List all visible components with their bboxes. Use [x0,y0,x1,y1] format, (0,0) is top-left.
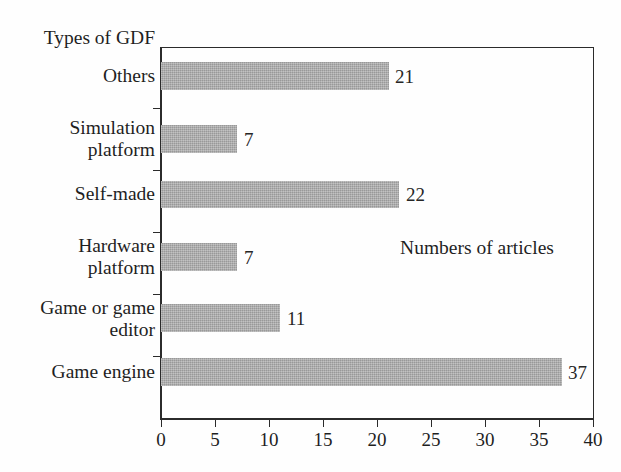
x-tick-35 [539,420,540,427]
x-tick-label-25: 25 [422,430,441,450]
x-tick-0 [161,420,162,427]
x-tick-10 [269,420,270,427]
x-tick-15 [323,420,324,427]
x-axis: 0 5 10 15 20 25 30 35 40 [0,0,621,472]
x-tick-label-15: 15 [314,430,333,450]
x-tick-label-20: 20 [368,430,387,450]
x-tick-label-35: 35 [530,430,549,450]
x-tick-40 [593,420,594,427]
x-tick-25 [431,420,432,427]
x-tick-label-30: 30 [476,430,495,450]
x-tick-label-40: 40 [584,430,603,450]
x-tick-30 [485,420,486,427]
x-tick-label-0: 0 [156,430,166,450]
x-tick-5 [215,420,216,427]
x-tick-label-10: 10 [260,430,279,450]
bar-chart-figure: Types of GDF Others Simulation platform … [0,0,621,472]
x-tick-20 [377,420,378,427]
x-tick-label-5: 5 [210,430,220,450]
